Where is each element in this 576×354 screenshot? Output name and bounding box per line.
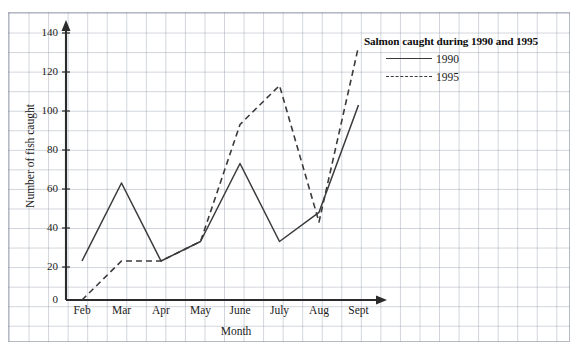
- x-tick-label-july: July: [260, 304, 300, 316]
- x-tick-label-apr: Apr: [141, 304, 181, 316]
- legend-label-1990: 1990: [436, 53, 459, 65]
- x-tick-label-aug: Aug: [299, 304, 339, 316]
- x-tick-label-feb: Feb: [62, 304, 102, 316]
- x-tick-label-sept: Sept: [339, 304, 379, 316]
- y-axis-arrowhead: [62, 20, 71, 31]
- series-line-1995: [82, 47, 359, 301]
- y-tick-label: 20: [32, 260, 58, 272]
- x-tick-label-mar: Mar: [102, 304, 142, 316]
- legend-swatch-solid-icon: [386, 54, 432, 64]
- y-tick-label: 40: [32, 221, 58, 233]
- legend-entry-1995: 1995: [386, 71, 570, 83]
- y-tick-label: 120: [32, 65, 58, 77]
- legend-swatch-dashed-icon: [386, 72, 432, 82]
- chart-legend: Salmon caught during 1990 and 1995 1990 …: [364, 35, 570, 83]
- y-tick-label: 0: [32, 293, 58, 305]
- x-axis-title: Month: [186, 325, 286, 337]
- x-tick-label-may: May: [181, 304, 221, 316]
- y-axis-title: Number of fish caught: [24, 96, 36, 216]
- chart-figure: 140 120 100 80 60 40 20 0 Feb Mar Apr Ma…: [0, 0, 576, 354]
- y-tick-label: 140: [32, 26, 58, 38]
- legend-label-1995: 1995: [436, 71, 459, 83]
- legend-title: Salmon caught during 1990 and 1995: [364, 35, 570, 47]
- x-tick-label-june: June: [220, 304, 260, 316]
- legend-entry-1990: 1990: [386, 53, 570, 65]
